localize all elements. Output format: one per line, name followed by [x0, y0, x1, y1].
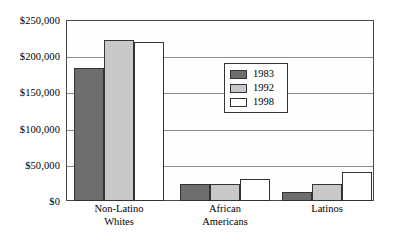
x-axis-label-african-americans: African Americans: [202, 203, 247, 228]
bar-1992-latinos: [312, 184, 342, 201]
bar-1992-african-americans: [210, 184, 240, 201]
y-axis-tick-label: $0: [49, 196, 60, 207]
x-axis-label-line: Non-Latino: [95, 203, 144, 216]
x-axis-label-latinos: Latinos: [311, 203, 343, 216]
x-axis-label-line: Whites: [95, 216, 144, 229]
y-axis: $250,000 $200,000 $150,000 $100,000 $50,…: [0, 0, 64, 244]
bar-1992-non-latino-whites: [104, 40, 134, 201]
bar-1998-latinos: [342, 172, 372, 201]
legend-item-1992: 1992: [230, 82, 282, 94]
legend-swatch-icon: [230, 84, 247, 93]
bar-group-latinos: [282, 20, 372, 201]
legend-label: 1992: [253, 83, 274, 93]
x-axis-label-line: Americans: [202, 216, 247, 229]
bar-1998-african-americans: [240, 179, 270, 201]
bar-1983-non-latino-whites: [74, 68, 104, 201]
bar-chart: $250,000 $200,000 $150,000 $100,000 $50,…: [0, 0, 394, 244]
bar-group-non-latino-whites: [74, 20, 164, 201]
legend-swatch-icon: [230, 70, 247, 79]
y-axis-tick-label: $50,000: [25, 159, 60, 170]
legend-label: 1998: [253, 97, 274, 107]
y-axis-tick-label: $150,000: [20, 87, 60, 98]
y-axis-tick-label: $250,000: [20, 15, 60, 26]
x-axis-label-non-latino-whites: Non-Latino Whites: [95, 203, 144, 228]
legend-item-1983: 1983: [230, 68, 282, 80]
x-axis-label-line: African: [202, 203, 247, 216]
bars-layer: [66, 20, 374, 201]
legend-label: 1983: [253, 69, 274, 79]
x-axis-label-line: Latinos: [311, 203, 343, 216]
legend-item-1998: 1998: [230, 96, 282, 108]
y-axis-tick-label: $200,000: [20, 51, 60, 62]
x-axis: Non-Latino Whites African Americans Lati…: [66, 203, 374, 243]
bar-1983-latinos: [282, 192, 312, 201]
legend: 1983 1992 1998: [224, 63, 288, 113]
bar-1983-african-americans: [180, 184, 210, 201]
legend-swatch-icon: [230, 98, 247, 107]
bar-1998-non-latino-whites: [134, 42, 164, 201]
y-axis-tick-label: $100,000: [20, 123, 60, 134]
